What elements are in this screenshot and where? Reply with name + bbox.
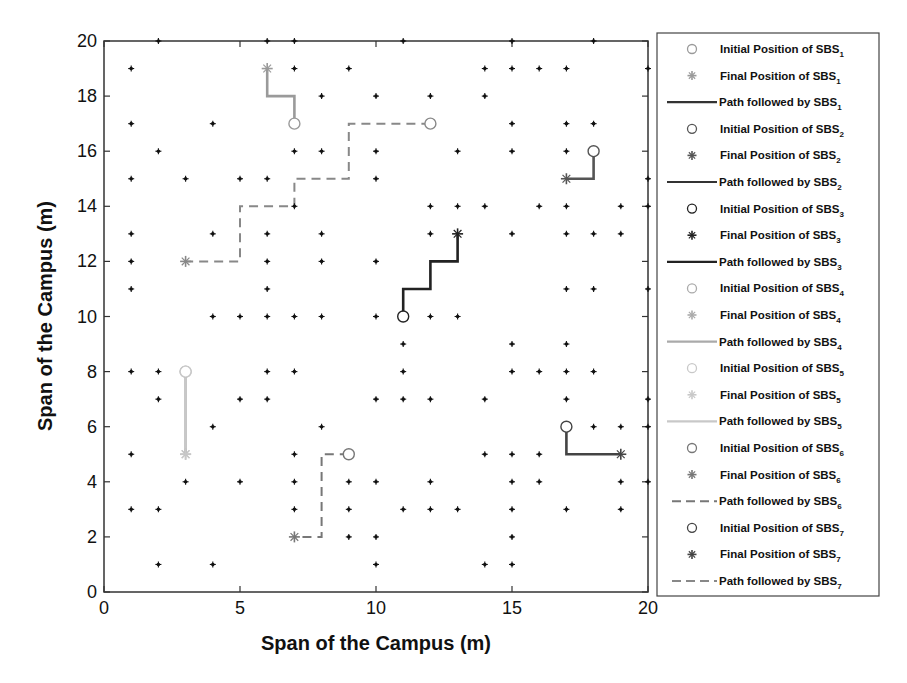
initial-position-sbs6b: [561, 421, 572, 432]
star-marker-icon: [688, 390, 697, 399]
circle-marker-icon: [688, 523, 697, 532]
y-tick-label: 20: [77, 31, 97, 51]
initial-position-sbs6: [343, 449, 354, 460]
star-marker-icon: [688, 151, 697, 160]
initial-position-sbs7: [425, 118, 436, 129]
y-tick-label: 8: [87, 362, 97, 382]
circle-marker-icon: [688, 364, 697, 373]
x-tick-label: 5: [235, 598, 245, 618]
y-axis-label: Span of the Campus (m): [34, 201, 56, 431]
y-tick-label: 18: [77, 86, 97, 106]
y-tick-label: 4: [87, 472, 97, 492]
y-tick-label: 6: [87, 417, 97, 437]
y-tick-label: 12: [77, 251, 97, 271]
initial-position-sbs5: [180, 366, 191, 377]
star-marker-icon: [688, 71, 697, 80]
circle-marker-icon: [688, 284, 697, 293]
initial-position-sbs2: [588, 146, 599, 157]
x-axis-label: Span of the Campus (m): [261, 632, 491, 654]
y-tick-label: 14: [77, 196, 97, 216]
plot-area: 0510152002468101214161820: [77, 31, 658, 618]
y-tick-label: 16: [77, 141, 97, 161]
circle-marker-icon: [688, 444, 697, 453]
final-position-sbs6b: [615, 449, 626, 460]
y-tick-label: 0: [87, 582, 97, 602]
y-tick-label: 10: [77, 307, 97, 327]
y-tick-label: 2: [87, 527, 97, 547]
x-tick-label: 10: [366, 598, 386, 618]
circle-marker-icon: [688, 45, 697, 54]
star-marker-icon: [688, 311, 697, 320]
final-position-sbs2: [561, 173, 572, 184]
star-marker-icon: [688, 231, 697, 240]
x-tick-label: 15: [502, 598, 522, 618]
circle-marker-icon: [688, 124, 697, 133]
circle-marker-icon: [688, 204, 697, 213]
final-position-sbs6: [289, 531, 300, 542]
x-tick-label: 0: [99, 598, 109, 618]
star-marker-icon: [688, 470, 697, 479]
initial-position-sbs3: [398, 311, 409, 322]
initial-position-sbs1: [289, 118, 300, 129]
x-tick-label: 20: [638, 598, 658, 618]
legend: Initial Position of SBS1Final Position o…: [657, 33, 879, 596]
chart: 0510152002468101214161820 Span of the Ca…: [0, 0, 907, 683]
